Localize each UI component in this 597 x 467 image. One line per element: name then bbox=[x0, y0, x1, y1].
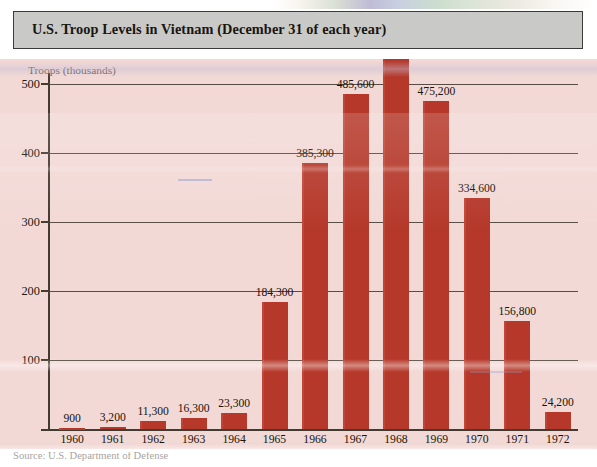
bar-edge-highlight bbox=[464, 198, 466, 429]
bar bbox=[383, 59, 409, 429]
x-axis-line bbox=[41, 429, 578, 431]
bar-edge-highlight bbox=[343, 94, 345, 429]
bar bbox=[262, 302, 288, 429]
bar bbox=[343, 94, 369, 429]
page-title: U.S. Troop Levels in Vietnam (December 3… bbox=[32, 21, 386, 38]
bar-edge-highlight bbox=[100, 427, 102, 429]
bar-edge-highlight bbox=[181, 418, 183, 429]
y-axis-tick-mark bbox=[41, 83, 48, 84]
bar-value-label: 23,300 bbox=[218, 397, 250, 410]
bar-edge-highlight bbox=[140, 421, 142, 429]
bar-value-label: 900 bbox=[63, 412, 80, 425]
bar-edge-highlight bbox=[423, 101, 425, 429]
bar-edge-highlight bbox=[302, 163, 304, 429]
bar-value-label: 385,300 bbox=[296, 147, 334, 160]
bar-value-label: 334,600 bbox=[458, 182, 496, 195]
bar-value-label: 11,300 bbox=[137, 405, 168, 418]
y-axis-tick-mark bbox=[41, 152, 48, 153]
bar-edge-highlight bbox=[383, 59, 385, 429]
bar bbox=[302, 163, 328, 429]
y-axis-tick-mark bbox=[41, 290, 48, 291]
plot-area: 10020030040050090019603,200196111,300196… bbox=[0, 59, 597, 448]
gridline bbox=[48, 84, 578, 85]
y-axis-line bbox=[48, 73, 50, 430]
y-axis-tick-label: 300 bbox=[2, 215, 40, 230]
y-axis-tick-mark bbox=[41, 221, 48, 222]
y-axis-tick-mark bbox=[41, 359, 48, 360]
bar-edge-highlight bbox=[221, 413, 223, 429]
y-axis-tick-label: 500 bbox=[2, 77, 40, 92]
bar bbox=[464, 198, 490, 429]
bar bbox=[100, 427, 126, 429]
chart-title-bar: U.S. Troop Levels in Vietnam (December 3… bbox=[13, 11, 583, 49]
figure-caption: Source: U.S. Department of Defense bbox=[0, 452, 597, 467]
bar-value-label: 156,800 bbox=[498, 305, 536, 318]
figure-caption-text: Source: U.S. Department of Defense bbox=[13, 452, 168, 461]
y-axis-tick-label: 400 bbox=[2, 146, 40, 161]
bar-value-label: 3,200 bbox=[100, 411, 126, 424]
bar-edge-highlight bbox=[545, 412, 547, 429]
bar bbox=[545, 412, 571, 429]
bar-value-label: 184,300 bbox=[256, 286, 294, 299]
chart-plot-panel: Troops (thousands) 100200300400500900196… bbox=[0, 59, 597, 448]
y-axis-tick-label: 200 bbox=[2, 284, 40, 299]
bar bbox=[181, 418, 207, 429]
panel-bottom-edge bbox=[0, 443, 597, 449]
scan-artifact-top-fringe bbox=[0, 0, 597, 9]
bar-value-label: 485,600 bbox=[337, 78, 375, 91]
chart-page: Troops (thousands) 100200300400500900196… bbox=[0, 0, 597, 467]
bar bbox=[59, 428, 85, 430]
bar-value-label: 24,200 bbox=[542, 396, 574, 409]
bar bbox=[504, 321, 530, 429]
bar bbox=[140, 421, 166, 429]
y-axis-tick-label: 100 bbox=[2, 353, 40, 368]
bar bbox=[423, 101, 449, 429]
bar-edge-highlight bbox=[504, 321, 506, 429]
bar-value-label: 16,300 bbox=[178, 402, 210, 415]
bar bbox=[221, 413, 247, 429]
bar-edge-highlight bbox=[59, 428, 61, 430]
bar-edge-highlight bbox=[262, 302, 264, 429]
bar-value-label: 475,200 bbox=[418, 85, 456, 98]
